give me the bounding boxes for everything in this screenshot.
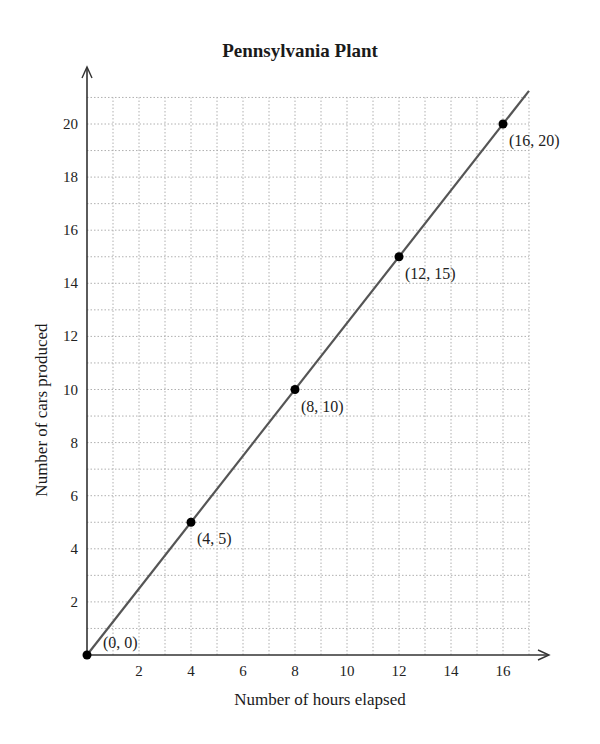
x-tick-label: 16 <box>496 663 512 679</box>
x-tick-label: 4 <box>187 663 195 679</box>
data-point-label: (8, 10) <box>301 398 344 416</box>
y-tick-label: 20 <box>63 116 78 132</box>
data-point-label: (16, 20) <box>509 132 560 150</box>
x-tick-label: 10 <box>340 663 355 679</box>
plot-area: 2468101214162468101214161820(0, 0)(4, 5)… <box>0 0 600 744</box>
x-tick-label: 2 <box>135 663 143 679</box>
y-tick-label: 18 <box>63 169 78 185</box>
data-line <box>87 91 529 655</box>
data-point-label: (12, 15) <box>405 265 456 283</box>
y-tick-label: 2 <box>71 594 79 610</box>
data-point <box>83 651 92 660</box>
x-tick-label: 8 <box>291 663 299 679</box>
data-point <box>395 252 404 261</box>
data-point <box>187 518 196 527</box>
data-point <box>499 120 508 129</box>
y-tick-label: 16 <box>63 222 79 238</box>
data-point <box>291 385 300 394</box>
x-tick-label: 12 <box>392 663 407 679</box>
x-tick-label: 14 <box>444 663 460 679</box>
y-tick-label: 12 <box>63 328 78 344</box>
data-point-label: (4, 5) <box>197 530 232 548</box>
data-point-label: (0, 0) <box>103 634 138 652</box>
y-tick-label: 8 <box>71 435 79 451</box>
y-tick-label: 4 <box>71 541 79 557</box>
y-tick-label: 6 <box>71 488 79 504</box>
x-tick-label: 6 <box>239 663 247 679</box>
y-tick-label: 14 <box>63 275 79 291</box>
y-tick-label: 10 <box>63 382 78 398</box>
